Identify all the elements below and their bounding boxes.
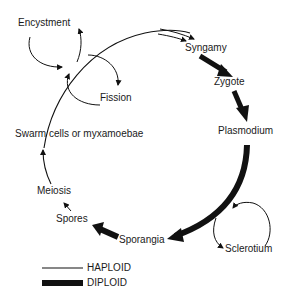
meiosis-swarm-arrow bbox=[43, 150, 51, 184]
legend-diploid-bar bbox=[42, 280, 83, 286]
label-swarm-cells: Swarm cells or myxamoebae bbox=[15, 128, 143, 140]
sclerotium-loop-in bbox=[214, 218, 223, 248]
encystment-loop-out bbox=[77, 29, 81, 62]
fission-loop-in bbox=[67, 74, 100, 105]
label-sclerotium: Sclerotium bbox=[225, 243, 272, 255]
label-spores: Spores bbox=[56, 213, 88, 225]
label-fission: Fission bbox=[100, 92, 132, 104]
sclerotium-loop-out bbox=[233, 202, 270, 246]
label-meiosis: Meiosis bbox=[37, 185, 71, 197]
spores-meiosis-arrow bbox=[64, 203, 71, 211]
legend-haploid-label: HAPLOID bbox=[87, 262, 131, 274]
life-cycle-diagram bbox=[0, 0, 287, 305]
label-plasmodium: Plasmodium bbox=[218, 125, 273, 137]
label-zygote: Zygote bbox=[214, 76, 245, 88]
diploid-plasmodium-sporangia bbox=[175, 145, 247, 236]
encystment-loop-in bbox=[29, 37, 62, 67]
label-syngamy: Syngamy bbox=[185, 42, 227, 54]
syngamy-arrow-2 bbox=[158, 34, 186, 41]
diploid-sporangia-spores bbox=[100, 229, 118, 237]
label-encystment: Encystment bbox=[18, 17, 70, 29]
label-sporangia: Sporangia bbox=[119, 234, 165, 246]
legend-diploid-label: DIPLOID bbox=[87, 277, 127, 289]
